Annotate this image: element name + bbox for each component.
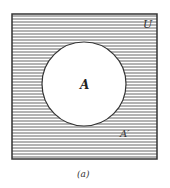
caption: (a) — [77, 169, 90, 179]
venn-diagram: U A A′ (a) — [0, 0, 170, 188]
complement-label: A′ — [119, 128, 130, 139]
universe-label: U — [143, 18, 153, 31]
set-a-label: A — [79, 78, 89, 92]
